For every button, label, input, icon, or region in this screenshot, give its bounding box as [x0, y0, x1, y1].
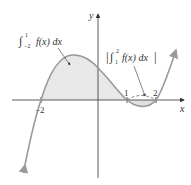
- y-axis-label: y: [88, 10, 94, 21]
- svg-text:1: 1: [115, 59, 118, 65]
- svg-text:2: 2: [116, 48, 119, 54]
- right-integral-annotation: | ∫ 2 1 f(x) dx |: [106, 48, 157, 65]
- svg-text:|: |: [154, 49, 157, 64]
- right-annotation-pointer: [134, 66, 145, 96]
- function-curve: [25, 50, 176, 165]
- svg-text:∫: ∫: [109, 50, 114, 64]
- integral-graph: y x −2 1 2 ∫ 1 −2 f(x) dx | ∫ 2 1 f(x) d…: [0, 0, 191, 185]
- tick-label-2: 2: [153, 88, 158, 98]
- svg-text:1: 1: [25, 32, 28, 38]
- svg-text:f(x) dx: f(x) dx: [122, 52, 148, 64]
- x-axis-label: x: [179, 103, 185, 114]
- left-integral-annotation: ∫ 1 −2 f(x) dx: [18, 32, 62, 49]
- tick-label-1: 1: [124, 88, 129, 98]
- tick-label-neg2: −2: [35, 105, 45, 115]
- svg-text:−2: −2: [24, 43, 30, 49]
- right-region-dashed-arc: [127, 96, 156, 101]
- svg-text:f(x) dx: f(x) dx: [36, 36, 62, 48]
- svg-text:|: |: [106, 49, 109, 64]
- svg-text:∫: ∫: [18, 34, 23, 48]
